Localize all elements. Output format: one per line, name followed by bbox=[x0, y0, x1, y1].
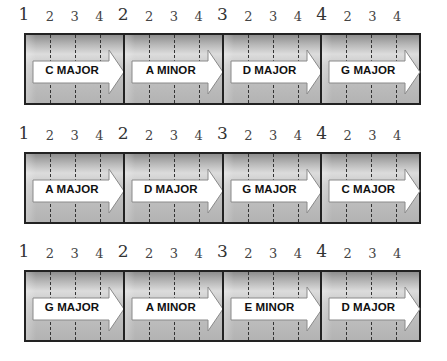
measure-number-label: 1 bbox=[19, 243, 30, 260]
chord-label: G MAJOR bbox=[234, 183, 306, 195]
beat-number-label: 2 bbox=[244, 247, 252, 260]
chord-label: C MAJOR bbox=[332, 183, 404, 195]
chord-label: D MAJOR bbox=[234, 64, 306, 76]
measure-number-label: 4 bbox=[316, 6, 327, 23]
beat-numbers: 1234223432344234 bbox=[0, 0, 447, 28]
beat-numbers: 1234223432344234 bbox=[0, 119, 447, 147]
beat-number-label: 3 bbox=[368, 247, 376, 260]
beat-number-label: 3 bbox=[269, 247, 277, 260]
measure-4: C MAJOR bbox=[320, 154, 419, 222]
beat-number-label: 3 bbox=[368, 10, 376, 23]
measure-3: D MAJOR bbox=[222, 35, 321, 103]
beat-number-label: 4 bbox=[95, 10, 103, 23]
beat-number-label: 2 bbox=[343, 129, 351, 142]
beat-number-label: 3 bbox=[368, 129, 376, 142]
beat-number-label: 3 bbox=[269, 129, 277, 142]
beat-number-label: 2 bbox=[145, 129, 153, 142]
beat-numbers: 1234223432344234 bbox=[0, 237, 447, 265]
measure-number-label: 4 bbox=[316, 243, 327, 260]
beat-number-label: 2 bbox=[145, 247, 153, 260]
chord-label: A MAJOR bbox=[36, 183, 108, 195]
beat-number-label: 2 bbox=[244, 10, 252, 23]
chord-arrow: E MINOR bbox=[231, 286, 323, 332]
measure-strip: G MAJORA MINORE MINORD MAJOR bbox=[24, 270, 421, 342]
beat-number-label: 4 bbox=[195, 247, 203, 260]
measure-3: E MINOR bbox=[222, 272, 321, 340]
measure-number-label: 4 bbox=[316, 125, 327, 142]
chord-arrow: D MAJOR bbox=[132, 168, 224, 214]
progression-row-1: 1234223432344234 C MAJORA MINORD MAJORG … bbox=[0, 0, 447, 105]
chord-arrow: D MAJOR bbox=[329, 286, 421, 332]
beat-number-label: 4 bbox=[195, 10, 203, 23]
measure-4: G MAJOR bbox=[320, 35, 419, 103]
measure-2: D MAJOR bbox=[123, 154, 222, 222]
chord-arrow: C MAJOR bbox=[329, 168, 421, 214]
chord-label: C MAJOR bbox=[36, 64, 108, 76]
measure-2: A MINOR bbox=[123, 272, 222, 340]
chord-arrow: A MINOR bbox=[132, 286, 224, 332]
beat-number-label: 4 bbox=[294, 129, 302, 142]
beat-number-label: 4 bbox=[294, 247, 302, 260]
beat-number-label: 2 bbox=[343, 247, 351, 260]
beat-number-label: 3 bbox=[269, 10, 277, 23]
measure-1: G MAJOR bbox=[26, 272, 123, 340]
measure-1: C MAJOR bbox=[26, 35, 123, 103]
measure-number-label: 1 bbox=[19, 6, 30, 23]
measure-number-label: 3 bbox=[217, 243, 228, 260]
measure-number-label: 3 bbox=[217, 6, 228, 23]
measure-number-label: 2 bbox=[118, 125, 129, 142]
chord-arrow: C MAJOR bbox=[33, 49, 125, 95]
beat-number-label: 4 bbox=[95, 247, 103, 260]
beat-number-label: 4 bbox=[393, 10, 401, 23]
measure-strip: C MAJORA MINORD MAJORG MAJOR bbox=[24, 33, 421, 105]
progression-row-2: 1234223432344234 A MAJORD MAJORG MAJORC … bbox=[0, 119, 447, 224]
beat-number-label: 4 bbox=[393, 247, 401, 260]
beat-number-label: 2 bbox=[244, 129, 252, 142]
chord-label: G MAJOR bbox=[36, 301, 108, 313]
measure-4: D MAJOR bbox=[320, 272, 419, 340]
beat-number-label: 4 bbox=[195, 129, 203, 142]
beat-number-label: 4 bbox=[95, 129, 103, 142]
chord-arrow: G MAJOR bbox=[329, 49, 421, 95]
progression-row-3: 1234223432344234 G MAJORA MINORE MINORD … bbox=[0, 237, 447, 342]
measure-1: A MAJOR bbox=[26, 154, 123, 222]
measure-2: A MINOR bbox=[123, 35, 222, 103]
measure-strip: A MAJORD MAJORG MAJORC MAJOR bbox=[24, 152, 421, 224]
measure-3: G MAJOR bbox=[222, 154, 321, 222]
beat-number-label: 4 bbox=[393, 129, 401, 142]
chord-label: A MINOR bbox=[135, 64, 207, 76]
beat-number-label: 3 bbox=[70, 10, 78, 23]
beat-number-label: 3 bbox=[170, 129, 178, 142]
chord-label: D MAJOR bbox=[332, 301, 404, 313]
measure-number-label: 2 bbox=[118, 6, 129, 23]
chord-label: D MAJOR bbox=[135, 183, 207, 195]
measure-number-label: 2 bbox=[118, 243, 129, 260]
chord-label: G MAJOR bbox=[332, 64, 404, 76]
chord-label: E MINOR bbox=[234, 301, 306, 313]
beat-number-label: 2 bbox=[46, 247, 54, 260]
measure-number-label: 1 bbox=[19, 125, 30, 142]
beat-number-label: 2 bbox=[46, 10, 54, 23]
beat-number-label: 4 bbox=[294, 10, 302, 23]
beat-number-label: 2 bbox=[343, 10, 351, 23]
chord-arrow: G MAJOR bbox=[231, 168, 323, 214]
measure-number-label: 3 bbox=[217, 125, 228, 142]
beat-number-label: 3 bbox=[70, 247, 78, 260]
beat-number-label: 3 bbox=[170, 247, 178, 260]
beat-number-label: 2 bbox=[145, 10, 153, 23]
chord-arrow: A MINOR bbox=[132, 49, 224, 95]
chord-label: A MINOR bbox=[135, 301, 207, 313]
beat-number-label: 3 bbox=[70, 129, 78, 142]
chord-arrow: A MAJOR bbox=[33, 168, 125, 214]
chord-arrow: G MAJOR bbox=[33, 286, 125, 332]
beat-number-label: 2 bbox=[46, 129, 54, 142]
beat-number-label: 3 bbox=[170, 10, 178, 23]
chord-arrow: D MAJOR bbox=[231, 49, 323, 95]
